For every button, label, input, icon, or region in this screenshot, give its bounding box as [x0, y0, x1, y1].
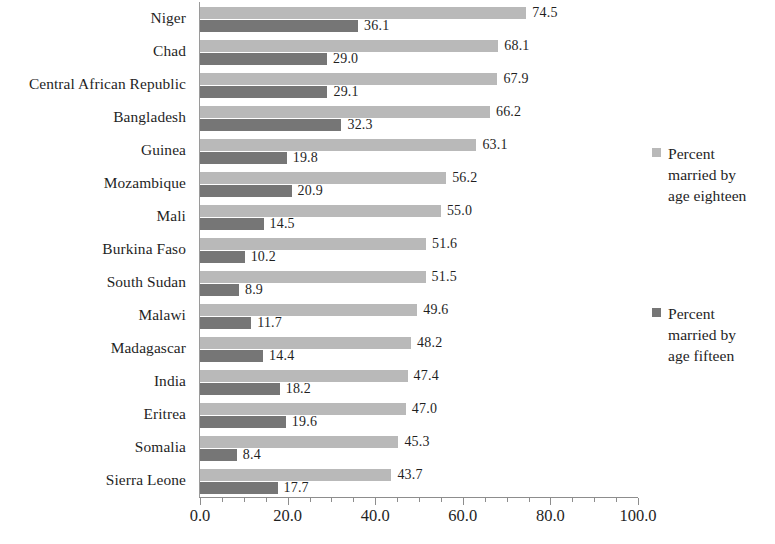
minor-tick	[419, 498, 420, 502]
category-label: Guinea	[0, 142, 186, 157]
bar-light	[200, 205, 441, 217]
category-axis-labels: NigerChadCentral African RepublicBanglad…	[0, 0, 192, 497]
bar-group: 74.536.1	[200, 7, 638, 36]
bar-value-label: 14.5	[270, 218, 295, 230]
bar-group: 45.38.4	[200, 436, 638, 465]
x-axis-tick-label: 40.0	[361, 508, 390, 525]
major-tick	[463, 498, 464, 505]
bar-dark	[200, 185, 292, 197]
bar-group: 51.610.2	[200, 238, 638, 267]
bar-light	[200, 271, 426, 283]
bar-value-label: 48.2	[417, 337, 442, 349]
bar-group: 48.214.4	[200, 337, 638, 366]
legend-swatch-icon	[652, 308, 661, 317]
bar-light	[200, 139, 476, 151]
bar-value-label: 32.3	[347, 119, 372, 131]
bar-group: 56.220.9	[200, 172, 638, 201]
bar-light	[200, 337, 411, 349]
bar-value-label: 11.7	[257, 317, 282, 329]
minor-tick	[529, 498, 530, 502]
bar-value-label: 17.7	[284, 482, 309, 494]
x-axis-tick-label: 100.0	[619, 508, 656, 525]
bar-value-label: 29.1	[333, 86, 358, 98]
bar-light	[200, 304, 417, 316]
bar-value-label: 19.6	[292, 416, 317, 428]
minor-tick	[244, 498, 245, 502]
minor-tick	[572, 498, 573, 502]
category-label: South Sudan	[0, 274, 186, 289]
bar-light	[200, 172, 446, 184]
minor-tick	[331, 498, 332, 502]
bar-group: 55.014.5	[200, 205, 638, 234]
bar-group: 49.611.7	[200, 304, 638, 333]
bar-value-label: 49.6	[423, 304, 448, 316]
legend-label: Percentmarried byage fifteen	[668, 303, 775, 366]
minor-tick	[222, 498, 223, 502]
minor-tick	[353, 498, 354, 502]
bar-group: 63.119.8	[200, 139, 638, 168]
category-label: Niger	[0, 10, 186, 25]
minor-tick	[616, 498, 617, 502]
major-tick	[550, 498, 551, 505]
bar-light	[200, 436, 398, 448]
bar-value-label: 8.4	[243, 449, 261, 461]
bar-dark	[200, 449, 237, 461]
category-label: Eritrea	[0, 406, 186, 421]
legend-label-line: Percent	[668, 303, 775, 324]
bar-group: 67.929.1	[200, 73, 638, 102]
category-label: Burkina Faso	[0, 241, 186, 256]
minor-tick	[507, 498, 508, 502]
bar-value-label: 14.4	[269, 350, 294, 362]
bar-value-label: 8.9	[245, 284, 263, 296]
bar-group: 47.019.6	[200, 403, 638, 432]
category-label: Mozambique	[0, 175, 186, 190]
bar-value-label: 66.2	[496, 106, 521, 118]
bar-value-label: 18.2	[286, 383, 311, 395]
category-label: Central African Republic	[0, 76, 186, 91]
bar-dark	[200, 86, 327, 98]
bar-group: 68.129.0	[200, 40, 638, 69]
bar-dark	[200, 251, 245, 263]
bar-group: 51.58.9	[200, 271, 638, 300]
category-label: Madagascar	[0, 340, 186, 355]
category-label: Mali	[0, 208, 186, 223]
bar-dark	[200, 53, 327, 65]
legend-label-line: age fifteen	[668, 345, 775, 366]
major-tick	[288, 498, 289, 505]
plot-area: 74.536.168.129.067.929.166.232.363.119.8…	[200, 2, 638, 497]
legend-swatch-icon	[652, 148, 661, 157]
bar-dark	[200, 119, 341, 131]
category-label: Malawi	[0, 307, 186, 322]
minor-tick	[397, 498, 398, 502]
bar-value-label: 20.9	[298, 185, 323, 197]
minor-tick	[485, 498, 486, 502]
bar-dark	[200, 284, 239, 296]
bar-value-label: 47.4	[414, 370, 439, 382]
bar-value-label: 43.7	[397, 469, 422, 481]
bar-value-label: 29.0	[333, 53, 358, 65]
bar-dark	[200, 20, 358, 32]
legend-label-line: married by	[668, 164, 775, 185]
bar-dark	[200, 416, 286, 428]
bar-dark	[200, 152, 287, 164]
bar-value-label: 63.1	[482, 139, 507, 151]
bar-value-label: 47.0	[412, 403, 437, 415]
category-label: Bangladesh	[0, 109, 186, 124]
bar-dark	[200, 482, 278, 494]
bar-dark	[200, 383, 280, 395]
bar-value-label: 55.0	[447, 205, 472, 217]
bar-dark	[200, 350, 263, 362]
bar-value-label: 74.5	[532, 7, 557, 19]
bar-light	[200, 238, 426, 250]
x-axis-tick-label: 20.0	[273, 508, 302, 525]
category-label: Chad	[0, 43, 186, 58]
bar-value-label: 51.6	[432, 238, 457, 250]
bar-group: 43.717.7	[200, 469, 638, 498]
bar-value-label: 45.3	[404, 436, 429, 448]
bar-dark	[200, 218, 264, 230]
minor-tick	[266, 498, 267, 502]
bar-value-label: 10.2	[251, 251, 276, 263]
x-axis-tick-label: 80.0	[536, 508, 565, 525]
major-tick	[200, 498, 201, 505]
bar-value-label: 56.2	[452, 172, 477, 184]
